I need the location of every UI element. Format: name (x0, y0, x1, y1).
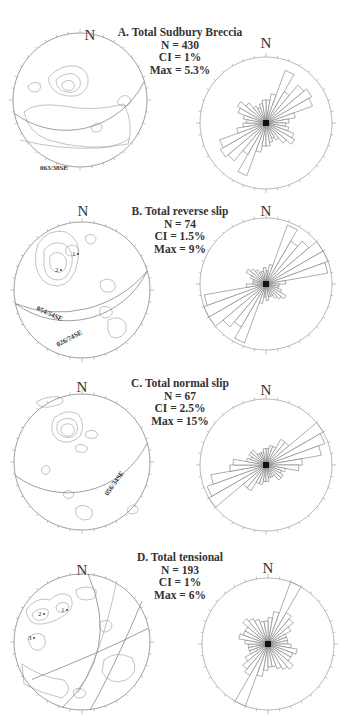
rose-diagram-d (198, 574, 338, 714)
maxima-label: 3 (28, 634, 32, 642)
stereonet-d: 123 (10, 570, 154, 714)
maxima-label: 2 (38, 610, 42, 618)
plane-label: 056/34SE (103, 469, 126, 497)
rose-diagram-b (196, 214, 336, 354)
stereonet-c: 056/34SE (10, 390, 154, 534)
maxima-label: 1 (72, 250, 76, 258)
plane-label: 026/74SE (55, 328, 84, 348)
figure-canvas: 063/38SE054/54SE026/74SE12056/34SE123 (0, 0, 352, 725)
stereonet-a: 063/38SE (9, 29, 151, 172)
rose-diagram-a (196, 53, 336, 193)
maxima-label: 2 (55, 266, 59, 274)
plane-label: 063/38SE (40, 164, 68, 172)
rose-diagram-c (196, 395, 336, 535)
stereonet-b: 054/54SE026/74SE12 (10, 218, 154, 362)
density-contours (20, 66, 138, 698)
maxima-label: 1 (61, 606, 65, 614)
generated-graphics: 063/38SE054/54SE026/74SE12056/34SE123 (9, 29, 338, 714)
plane-label: 054/54SE (35, 305, 64, 324)
